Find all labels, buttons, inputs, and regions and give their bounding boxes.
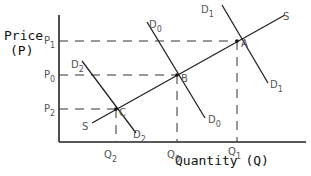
quantity-label-q0: Q0: [167, 149, 180, 164]
point-label-a: A: [241, 38, 248, 49]
y-axis-title: Price: [4, 28, 43, 43]
demand-curve-d0: [147, 22, 205, 118]
point-label-c: C: [119, 107, 126, 118]
price-label-p1: P1: [44, 35, 55, 50]
equilibrium-point-c: [114, 107, 118, 111]
equilibrium-point-a: [235, 39, 239, 43]
quantity-label-q2: Q2: [104, 149, 117, 164]
equilibrium-point-b: [175, 73, 179, 77]
supply-label-top: S: [283, 11, 289, 22]
x-axis-title: Quantity (Q): [175, 153, 269, 168]
d0-label-top: D0: [149, 19, 162, 34]
price-label-p0: P0: [44, 69, 55, 84]
supply-label-bottom: S: [82, 121, 88, 132]
d1-label-top: D1: [201, 4, 214, 19]
point-label-b: B: [181, 73, 188, 84]
price-label-p2: P2: [44, 103, 55, 118]
y-axis-title-symbol: (P): [10, 43, 33, 58]
supply-demand-diagram: Price (P) Quantity (Q) P1 P0 P2 Q2 Q0 Q1…: [0, 0, 311, 176]
demand-curve-d2: [82, 61, 136, 133]
d0-label-bottom: D0: [208, 114, 221, 129]
d1-label-bottom: D1: [270, 79, 283, 94]
